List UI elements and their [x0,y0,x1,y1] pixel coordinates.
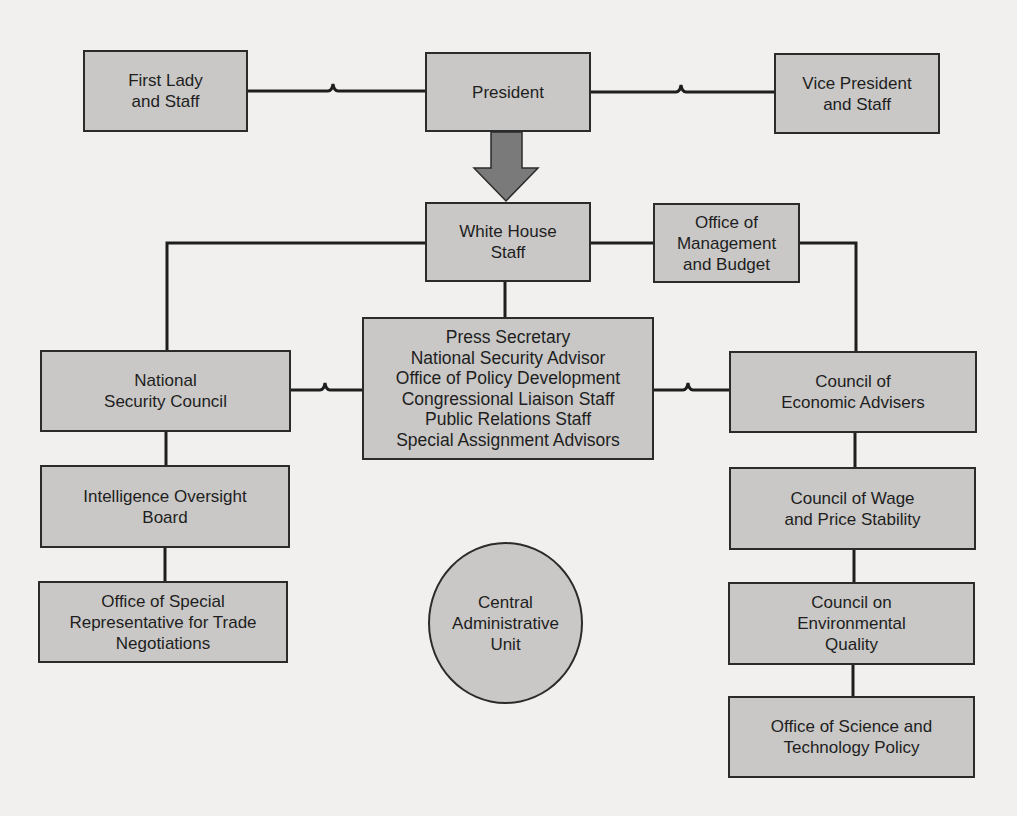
node-white-house-staff: White House Staff [425,202,591,282]
node-trade-representative: Office of Special Representative for Tra… [38,581,288,663]
connector-first-lady-president [247,84,426,91]
node-central-administrative-unit: Central Administrative Unit [428,542,583,704]
node-first-lady: First Lady and Staff [83,50,248,132]
node-vice-president: Vice President and Staff [774,53,940,134]
node-omb: Office of Management and Budget [653,203,800,283]
node-intelligence-oversight-board: Intelligence Oversight Board [40,465,290,548]
connector-president-vp [590,85,775,92]
node-council-economic-advisers: Council of Economic Advisers [729,351,977,433]
arrow-down-icon [474,132,538,201]
node-science-technology-policy: Office of Science and Technology Policy [728,696,975,778]
node-wage-price-stability: Council of Wage and Price Stability [729,467,976,550]
node-white-house-advisors: Press Secretary National Security Adviso… [362,317,654,460]
node-environmental-quality: Council on Environmental Quality [728,582,975,665]
connector-nsc-advisors [290,383,363,390]
connector-advisors-cea [653,383,730,390]
connector-omb-cea [800,243,856,352]
node-national-security-council: National Security Council [40,350,291,432]
node-president: President [425,52,591,132]
